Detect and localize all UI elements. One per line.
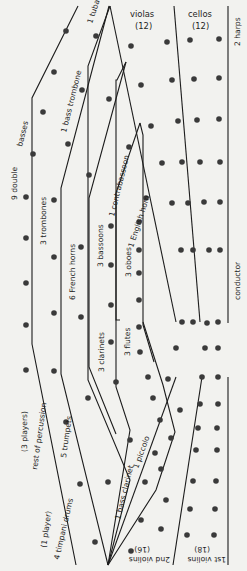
- seat-dot: [136, 297, 142, 303]
- seat-dot: [195, 425, 201, 431]
- seat-dot: [108, 302, 114, 308]
- label-harps: 2 harps: [233, 17, 242, 46]
- seat-dot: [40, 109, 46, 115]
- label-second-violins-count: (16): [134, 545, 150, 554]
- seat-dot: [217, 199, 223, 205]
- label-conductor: conductor: [233, 261, 242, 300]
- seat-dot: [63, 28, 69, 34]
- label-french-horns: 6 French horns: [68, 244, 77, 300]
- seat-dot: [175, 118, 181, 124]
- seat-dot: [178, 247, 184, 253]
- seat-dot: [190, 247, 196, 253]
- seat-dot: [85, 395, 91, 401]
- seat-dot: [184, 532, 190, 538]
- seat-dot: [215, 319, 221, 325]
- seat-dot: [30, 151, 36, 157]
- seat-dot: [165, 376, 171, 382]
- label-bass-clarinet: 1 bass clarinet: [113, 464, 135, 520]
- seat-dot: [211, 532, 217, 538]
- seat-dot: [126, 144, 132, 150]
- seat-dot: [201, 199, 207, 205]
- seat-dot: [177, 407, 183, 413]
- seat-dot: [214, 425, 220, 431]
- seat-dot: [159, 160, 165, 166]
- seat-dot: [92, 539, 98, 545]
- seat-dot: [136, 270, 142, 276]
- seat-dot: [194, 117, 200, 123]
- seat-dot: [136, 247, 142, 253]
- label-timpani-players: (1 player): [39, 510, 53, 548]
- seat-dot: [23, 235, 29, 241]
- label-tuba: 1 tuba: [85, 0, 101, 25]
- seat-dot: [216, 36, 222, 42]
- label-english-horn: 1 English horn: [126, 194, 151, 249]
- label-trumpets: 5 trumpets: [59, 415, 74, 458]
- label-first-violins-count: (18): [194, 545, 210, 554]
- seat-dot: [128, 548, 134, 554]
- seat-dot: [150, 395, 156, 401]
- seat-dot: [217, 159, 223, 165]
- seat-dot: [215, 401, 221, 407]
- seat-dot: [51, 197, 57, 203]
- label-double-basses: 9 double: [10, 167, 19, 200]
- label-violas-count: (12): [135, 21, 152, 31]
- seat-dot: [197, 401, 203, 407]
- seat-dot: [142, 479, 148, 485]
- seat-dot: [93, 33, 99, 39]
- seat-dot: [212, 506, 218, 512]
- label-oboes: 3 oboes: [124, 247, 133, 277]
- label-timpani: 4 timpani drums: [52, 497, 75, 560]
- seating-svg: violas (12) cellos (12) 2 harps conducto…: [0, 0, 247, 571]
- label-flutes: 3 flutes: [123, 328, 132, 356]
- seat-dot: [199, 374, 205, 380]
- seat-dot: [215, 374, 221, 380]
- seat-dot: [51, 254, 57, 260]
- label-percussion-players: (3 players): [20, 411, 29, 452]
- seat-dot: [113, 379, 119, 385]
- seat-dot: [51, 368, 57, 374]
- seat-dot: [217, 247, 223, 253]
- seat-dot: [138, 82, 144, 88]
- label-violas: violas: [130, 9, 154, 19]
- seat-dot: [202, 345, 208, 351]
- seat-dot: [108, 223, 114, 229]
- seat-dot: [86, 172, 92, 178]
- label-first-violins: 1st violins: [188, 555, 226, 564]
- seat-dot: [77, 481, 83, 487]
- seat-dot: [193, 447, 199, 453]
- seat-dot: [105, 479, 111, 485]
- seat-dot: [51, 69, 57, 75]
- seat-dot: [169, 77, 175, 83]
- label-bass-trombone: 1 bass trombone: [59, 69, 83, 134]
- seat-dot: [152, 450, 158, 456]
- seat-dot: [108, 262, 114, 268]
- seat-dot: [128, 43, 134, 49]
- label-contrabassoon: 1 contrabassoon: [107, 154, 131, 218]
- seat-dot: [138, 517, 144, 523]
- seat-dot: [190, 478, 196, 484]
- seat-dot: [206, 247, 212, 253]
- label-cellos: cellos: [188, 9, 212, 19]
- label-trombones: 3 trombones: [39, 197, 48, 245]
- seat-dot: [157, 417, 163, 423]
- seat-dot: [216, 116, 222, 122]
- label-bassoons: 3 bassoons: [96, 224, 105, 267]
- seat-dot: [213, 478, 219, 484]
- seat-dot: [51, 310, 57, 316]
- seat-dot: [137, 349, 143, 355]
- seat-dot: [163, 497, 169, 503]
- seat-dot: [190, 319, 196, 325]
- line-violins-left: [108, 377, 176, 565]
- label-clarinets: 3 clarinets: [97, 332, 106, 372]
- seat-dot: [127, 437, 133, 443]
- seat-dot: [191, 76, 197, 82]
- seat-dot: [197, 159, 203, 165]
- seat-dot: [169, 200, 175, 206]
- seat-dot: [214, 447, 220, 453]
- seat-dot: [215, 345, 221, 351]
- seat-dot: [216, 75, 222, 81]
- seat-dot: [79, 87, 85, 93]
- seat-dot: [108, 339, 114, 345]
- seat-dot: [168, 435, 174, 441]
- label-cellos-count: (12): [192, 21, 209, 31]
